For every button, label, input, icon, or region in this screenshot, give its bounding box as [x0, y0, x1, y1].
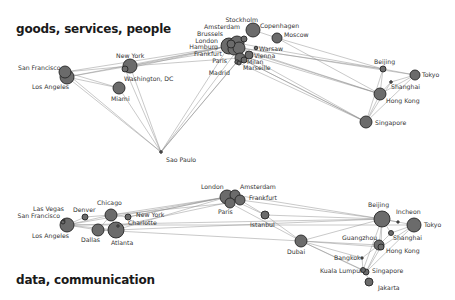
bottom-label-frankfurt: Frankfurt: [249, 194, 278, 201]
top-node-warsaw: [254, 46, 258, 50]
top-label-moscow: Moscow: [284, 31, 309, 38]
top-node-moscow: [272, 33, 282, 43]
bottom-label-denver: Denver: [73, 206, 96, 213]
bottom-label-new-york: New York: [136, 211, 165, 218]
bottom-label-chicago: Chicago: [97, 199, 122, 207]
bottom-label-los-angeles: Los Angeles: [32, 232, 69, 240]
bottom-node-bangkok: [361, 257, 363, 259]
bottom-label-amsterdam: Amsterdam: [240, 183, 276, 190]
bottom-node-tokyo: [407, 218, 421, 232]
bottom-label-london: London: [201, 183, 224, 190]
bottom-edge-chicago-paris: [111, 203, 230, 215]
bottom-label-tokyo: Tokyo: [423, 221, 442, 229]
bottom-label-beijing: Beijing: [368, 201, 389, 209]
bottom-node-las-vegas: [63, 219, 65, 221]
top-label-los-angeles: Los Angeles: [32, 83, 69, 91]
top-label-beijing: Beijing: [374, 58, 395, 66]
bottom-node-istanbul: [261, 211, 269, 219]
bottom-label-san-francisco: San Francisco: [17, 212, 60, 219]
top-node-hong-kong: [374, 88, 386, 100]
top-node-washington-dc: [122, 66, 128, 72]
bottom-label-jakarta: Jakarta: [377, 284, 400, 292]
bottom-edge-chicago-london: [111, 197, 227, 215]
top-label-warsaw: Warsaw: [259, 45, 283, 52]
nodes-goods-services-people: [59, 23, 420, 153]
bottom-node-dallas: [92, 224, 104, 236]
city-network-diagram: San FranciscoLos AngelesNew YorkWashingt…: [0, 0, 455, 300]
bottom-edge-istanbul-beijing: [265, 215, 382, 219]
bottom-label-guangzhou: Guangzhou: [342, 234, 377, 242]
bottom-node-frankfurt: [235, 195, 245, 205]
top-label-tokyo: Tokyo: [421, 71, 440, 79]
top-node-san-francisco: [59, 66, 71, 78]
top-node-marseille: [237, 61, 241, 65]
bottom-node-beijing: [374, 211, 390, 227]
top-label-new-york: New York: [116, 52, 145, 59]
top-label-copenhagen: Copenhagen: [260, 22, 299, 30]
top-edge-sao-paulo-frankfurt: [161, 48, 239, 152]
bottom-node-jakarta: [365, 278, 373, 286]
top-label-shanghai: Shanghai: [391, 83, 420, 91]
top-label-hong-kong: Hong Kong: [386, 97, 420, 105]
top-node-brussels: [227, 40, 235, 48]
bottom-edge-istanbul-dubai: [265, 215, 301, 241]
top-node-stockholm: [241, 36, 247, 42]
bottom-node-atlanta: [108, 222, 124, 238]
top-label-madrid: Madrid: [209, 69, 230, 76]
top-edge-marseille-singapore: [239, 63, 366, 122]
top-edge-los-angeles-miami: [67, 77, 119, 88]
bottom-node-charlotte: [117, 225, 119, 227]
bottom-label-hong-kong: Hong Kong: [386, 247, 420, 255]
top-label-marseille: Marseille: [243, 64, 271, 71]
bottom-label-singapore: Singapore: [372, 267, 403, 275]
bottom-label-charlotte: Charlotte: [128, 219, 157, 226]
bottom-node-denver: [82, 214, 88, 220]
bottom-node-chicago: [105, 209, 117, 221]
bottom-node-incheon: [397, 221, 399, 223]
top-label-frankfurt: Frankfurt: [194, 50, 223, 57]
bottom-label-paris: Paris: [218, 208, 233, 215]
bottom-label-incheon: Incheon: [396, 208, 421, 215]
bottom-label-dubai: Dubai: [287, 248, 305, 255]
top-label-miami: Miami: [111, 95, 130, 102]
bottom-label-kuala-lumpur: Kuala Lumpur: [320, 267, 363, 275]
bottom-edge-dubai-hong-kong: [301, 241, 381, 247]
top-node-tokyo: [410, 70, 420, 80]
top-node-sao-paulo: [160, 151, 163, 154]
top-label-san-francisco: San Francisco: [18, 64, 61, 71]
bottom-label-dallas: Dallas: [81, 236, 100, 243]
bottom-label-atlanta: Atlanta: [111, 239, 133, 246]
bottom-node-paris: [225, 198, 235, 208]
top-edge-moscow-beijing: [277, 38, 383, 69]
top-label-washington-dc: Washington, DC: [124, 75, 173, 83]
bottom-node-dubai: [295, 235, 307, 247]
bottom-label-shanghai: Shanghai: [393, 234, 422, 242]
top-node-copenhagen: [246, 23, 260, 37]
top-label-singapore: Singapore: [375, 119, 406, 127]
top-node-miami: [113, 82, 125, 94]
top-node-singapore: [360, 116, 372, 128]
bottom-node-hong-kong: [378, 244, 384, 250]
top-label-amsterdam: Amsterdam: [204, 23, 240, 30]
top-label-sao-paulo: Sao Paulo: [166, 156, 196, 163]
top-label-brussels: Brussels: [197, 30, 223, 37]
top-node-beijing: [380, 66, 386, 72]
top-label-stockholm: Stockholm: [225, 16, 258, 23]
top-label-paris: Paris: [212, 57, 227, 64]
bottom-label-bangkok: Bangkok: [334, 254, 361, 262]
top-edge-vienna-hong-kong: [249, 55, 380, 94]
bottom-label-istanbul: Istanbul: [250, 221, 275, 228]
